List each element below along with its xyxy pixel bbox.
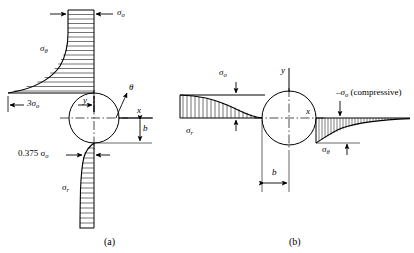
caption-panel-a: (a) (104, 236, 115, 247)
sigma-r-curve-a (80, 143, 94, 228)
label-frac-sigma0-a: 0.375 σo (18, 149, 49, 158)
sigma-theta-hatching-a (14, 15, 94, 92)
stress-distribution-figure: σo σθ 3σo 0.375 σo σr y x θ b (a) σo σr … (0, 0, 414, 253)
label-axis-x-b: x (306, 107, 310, 116)
caption-panel-b: (b) (289, 236, 301, 247)
label-axis-y-b: y (281, 66, 285, 75)
label-dim-b-a: b (143, 124, 148, 133)
label-angle-theta-a: θ (129, 83, 133, 92)
sigma-theta-curve-b (316, 119, 410, 143)
panel-a-drawing (8, 10, 153, 228)
label-sigma-r-b: σr (186, 126, 193, 135)
label-axis-x-a: x (137, 106, 141, 115)
sigma-theta-hatching-b (319, 118, 406, 141)
sigma-theta-curve-a (8, 10, 68, 93)
label-sigma0-top-a: σo (117, 8, 125, 17)
theta-arc-a (116, 93, 127, 118)
label-axis-y-a: y (83, 96, 87, 105)
sigma-r-curve-b (180, 95, 262, 118)
label-sigma-theta-b: σθ (322, 145, 330, 154)
label-sigma0-b: σo (219, 68, 227, 77)
figure-drawing (0, 0, 414, 253)
label-sigma-theta-a: σθ (40, 44, 48, 53)
label-sigma-r-a: σr (62, 183, 69, 192)
label-dim-b-b: b (272, 168, 277, 177)
label-neg-sigma0-compressive-b: –σo (compressive) (336, 88, 401, 97)
sigma-r-hatching-a (80, 148, 94, 223)
label-three-sigma0-a: 3σo (27, 99, 39, 108)
